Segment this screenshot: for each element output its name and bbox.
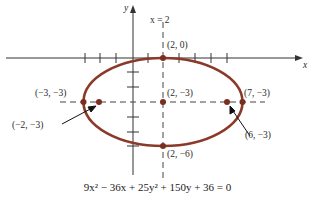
bottom-vertex-point [160, 143, 166, 149]
right-focus-point [224, 99, 230, 105]
top-vertex-point [160, 55, 166, 61]
left-vertex-point [81, 99, 87, 105]
right-focus-label: (6, −3) [245, 131, 271, 141]
center-point [160, 99, 166, 105]
left-vertex-label: (−3, −3) [35, 89, 66, 99]
y-axis [130, 5, 136, 175]
left-focus-label: (−2, −3) [12, 121, 43, 131]
ellipse-equation: 9x² − 36x + 25y² + 150y + 36 = 0 [0, 181, 315, 193]
center-label: (2, −3) [167, 89, 193, 99]
right-vertex-point [240, 99, 246, 105]
left-focus-point [96, 99, 102, 105]
line-x-equals-2-label: x = 2 [150, 16, 170, 26]
x-axis-label: x [303, 61, 307, 71]
right-vertex-label: (7, −3) [244, 89, 270, 99]
ellipse-diagram [0, 0, 315, 202]
bottom-vertex-label: (2, −6) [167, 150, 193, 160]
y-axis-label: y [124, 4, 128, 14]
top-vertex-label: (2, 0) [167, 41, 188, 51]
